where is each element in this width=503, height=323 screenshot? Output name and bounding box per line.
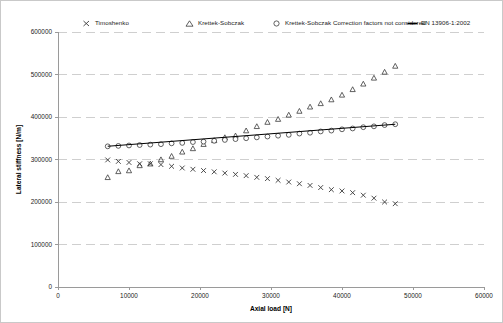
x-axis-title: Axial load [N] [250,305,292,313]
x-tick-label: 50000 [404,292,422,299]
x-tick-label: 40000 [333,292,351,299]
chart-container: Timoshenko Krettek-Sobczak Krettek-Sobcz… [0,0,503,323]
y-tick-label: 0 [48,283,52,290]
x-tick-label: 20000 [191,292,209,299]
axis-tick-labels: 0100000200000300000400000500000600000010… [31,28,494,299]
gridlines [58,32,484,245]
y-tick-label: 100000 [31,241,53,248]
series-3 [108,124,396,146]
data-series-layer [105,63,398,206]
y-tick-label: 500000 [31,71,53,78]
y-tick-label: 600000 [31,28,53,35]
x-tick-label: 60000 [475,292,493,299]
series-0 [105,158,397,207]
x-tick-label: 0 [56,292,60,299]
y-tick-label: 400000 [31,113,53,120]
plot-area: 0100000200000300000400000500000600000010… [1,1,503,323]
x-tick-label: 10000 [120,292,138,299]
y-axis-title: Lateral stiffness [N/m] [15,125,23,194]
y-tick-label: 300000 [31,156,53,163]
y-tick-label: 200000 [31,198,53,205]
x-tick-label: 30000 [262,292,280,299]
